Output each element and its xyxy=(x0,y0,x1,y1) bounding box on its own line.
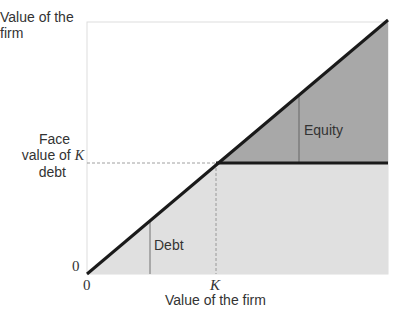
face-value-label-line-2: value of K xyxy=(0,147,84,164)
debt-region-label: Debt xyxy=(154,237,184,253)
equity-region-label: Equity xyxy=(304,122,343,138)
y-axis-zero-label: 0 xyxy=(72,258,80,274)
x-axis-k-label: K xyxy=(210,277,220,293)
y-axis-title-line-2: firm xyxy=(0,25,74,41)
face-value-label-text: value of xyxy=(22,147,71,163)
y-axis-title: Value of the firm xyxy=(0,9,74,41)
x-axis-title: Value of the firm xyxy=(165,292,266,308)
debt-equity-payoff-diagram: Value of the firm Face value of K debt 0… xyxy=(0,0,397,318)
face-value-label-line-1: Face xyxy=(0,131,84,147)
face-value-label-line-3: debt xyxy=(0,164,84,180)
y-axis-k-symbol: K xyxy=(75,148,84,163)
x-axis-zero-label: 0 xyxy=(83,277,91,293)
face-value-label: Face value of K debt xyxy=(0,131,84,180)
y-axis-title-line-1: Value of the xyxy=(0,9,74,25)
